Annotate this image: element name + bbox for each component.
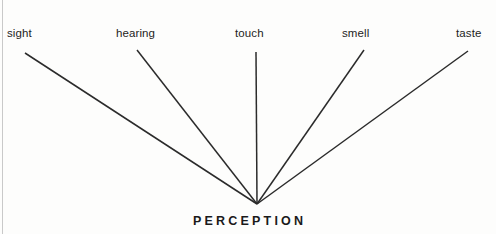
sense-label-touch: touch bbox=[235, 28, 264, 40]
sense-label-smell: smell bbox=[342, 28, 369, 40]
ray-line-taste bbox=[257, 51, 468, 204]
ray-line-smell bbox=[257, 50, 364, 204]
sense-label-taste: taste bbox=[456, 28, 481, 40]
sense-label-hearing: hearing bbox=[116, 28, 155, 40]
sense-label-sight: sight bbox=[7, 28, 32, 40]
ray-line-touch bbox=[256, 52, 257, 204]
ray-line-hearing bbox=[137, 50, 257, 204]
ray-line-sight bbox=[25, 53, 257, 204]
center-label-perception: PERCEPTION bbox=[0, 215, 496, 228]
perception-diagram: sight hearing touch smell taste PERCEPTI… bbox=[0, 0, 496, 234]
